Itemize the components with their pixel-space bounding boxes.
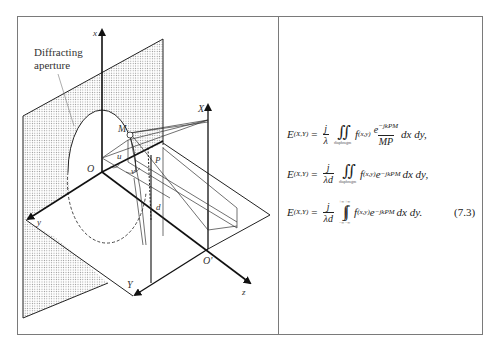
eq1-integral: ∬diaphragm [334, 124, 351, 145]
equation-2: E(X,Y) = jλd ∬diaphragm f(x,y) e−jkPM dx… [287, 162, 428, 185]
eq3-lhs-sub: (X,Y) [294, 208, 309, 216]
label-M: M [118, 124, 126, 134]
eq2-fraction: jλd [323, 162, 334, 185]
eq3-tail: dx dy. [397, 206, 423, 218]
label-x: x [93, 29, 97, 38]
eq1-frac-den: λ [323, 134, 329, 146]
eq2-integral: ∬diaphragm [339, 163, 356, 184]
label-v: v [131, 167, 135, 176]
eq1-lhs: E [287, 128, 294, 140]
eq1-lhs-sub: (X,Y) [294, 130, 309, 138]
label-u: u [117, 152, 122, 161]
eq2-lhs-sub: (X,Y) [294, 170, 309, 178]
eq3-equals: = [311, 206, 317, 218]
eq3-int-lower: −∞ −∞ [339, 220, 350, 225]
label-d: d [156, 203, 161, 212]
equation-1: E(X,Y) = jλ ∬diaphragm f(x,y) e−jkPMMP d… [287, 121, 427, 147]
eq2-int-symbol: ∬ [342, 163, 353, 179]
eq3-int-symbol: ∫∫ [343, 204, 346, 220]
eq3-kernel-sup: −jkPM [375, 208, 395, 216]
equation-3: E(X,Y) = jλd +∞ +∞∫∫−∞ −∞ f(x,y) e−jkPM … [287, 199, 422, 225]
eq2-f-sub: (x,y) [363, 170, 376, 178]
eq3-lhs: E [287, 206, 294, 218]
eq1-equals: = [311, 128, 317, 140]
eq2-tail: dx dy, [402, 168, 428, 180]
eq1-f-sub: (x,y) [358, 130, 371, 138]
label-X: X [198, 104, 204, 114]
eq3-f-sub: (x,y) [357, 208, 370, 216]
eq2-lhs: E [287, 168, 294, 180]
label-O: O [87, 164, 94, 174]
label-P: P [155, 156, 161, 165]
eq1-kernel: e−jkPMMP [373, 121, 399, 147]
label-O-prime: O' [203, 256, 212, 266]
eq2-frac-den: λd [323, 173, 334, 185]
eq1-tail: dx dy, [401, 128, 427, 140]
eq3-frac-num: j [326, 201, 331, 212]
eq1-int-lower: diaphragm [334, 140, 351, 145]
label-z: z [242, 288, 246, 297]
eq1-kernel-sup: −jkPM [378, 122, 398, 130]
eq1-kernel-den: MP [378, 135, 394, 147]
eq1-int-symbol: ∬ [337, 124, 348, 140]
label-Y: Y [127, 280, 133, 290]
eq2-kernel-sup: −jkPM [381, 170, 401, 178]
eq1-fraction: jλ [323, 123, 329, 146]
eq3-frac-den: λd [323, 212, 334, 224]
eq1-frac-num: j [323, 123, 328, 134]
label-y: y [37, 218, 41, 227]
eq2-frac-num: j [326, 162, 331, 173]
eq2-equals: = [311, 168, 317, 180]
equation-number: (7.3) [454, 206, 475, 218]
eq3-fraction: jλd [323, 201, 334, 224]
eq2-int-lower: diaphragm [339, 179, 356, 184]
eq3-integral: +∞ +∞∫∫−∞ −∞ [339, 199, 350, 225]
